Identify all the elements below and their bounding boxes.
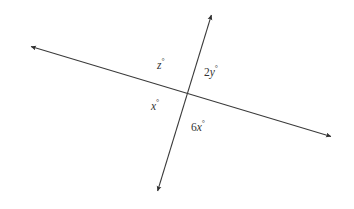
angle-label-2y: 2y° — [204, 65, 218, 78]
angle-label-z-degree: ° — [161, 57, 164, 66]
angle-label-2y-degree: ° — [215, 64, 218, 73]
angle-label-6x-degree: ° — [202, 119, 205, 128]
geometry-diagram: z° 2y° x° 6x° — [0, 0, 354, 209]
angle-label-z: z° — [157, 58, 165, 71]
steep-line — [158, 15, 212, 191]
angle-label-x: x° — [151, 99, 159, 112]
angle-label-x-degree: ° — [156, 98, 159, 107]
angle-label-6x: 6x° — [191, 120, 205, 133]
transversal-line — [31, 47, 331, 137]
geometry-canvas — [0, 0, 354, 209]
